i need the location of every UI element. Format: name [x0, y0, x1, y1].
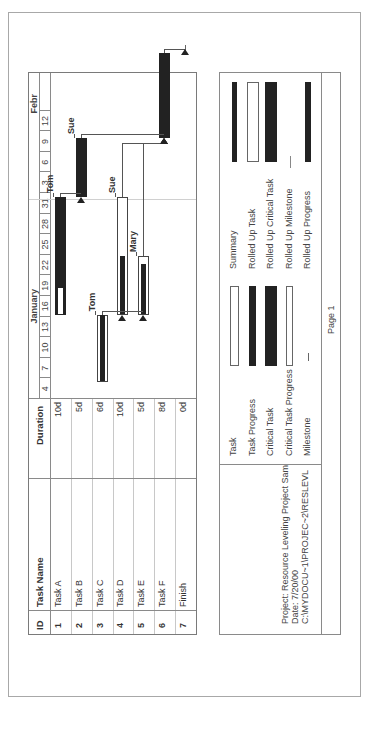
legend-swatch: [265, 82, 277, 162]
legend-label: Task: [228, 437, 238, 456]
unfilled-progress: [58, 288, 63, 314]
resource-label: Sue: [107, 177, 117, 194]
row-id: 5: [131, 623, 152, 628]
legend-swatch: [305, 82, 311, 162]
legend-label: Milestone: [302, 417, 312, 456]
row-task-name[interactable]: Finish: [173, 583, 194, 607]
timeline-tick: 25: [40, 234, 50, 255]
header-task-name[interactable]: Task Name: [29, 558, 50, 607]
legend-label: Rolled Up Milestone: [284, 188, 294, 269]
legend-swatch: [230, 286, 239, 366]
link-arrow: [77, 197, 85, 203]
timeline-tick: 28: [40, 214, 50, 235]
month-january: January: [29, 276, 40, 336]
legend-box: Project: Resource Leveling Project Sam D…: [219, 72, 341, 635]
legend-swatch: [249, 286, 256, 366]
timeline-tick: 19: [40, 275, 50, 296]
row-duration: 8d: [152, 402, 173, 429]
gantt-table: ID Task Name Duration 1Task A10d2Task B5…: [28, 72, 197, 635]
link-segment: [102, 312, 103, 315]
link-segment: [143, 144, 144, 256]
resource-leader: [74, 134, 75, 138]
link-segment: [122, 144, 123, 197]
project-date: Date: 7/20/00: [290, 570, 300, 624]
row-task-name[interactable]: Task A: [48, 580, 69, 607]
task-progress-bar: [141, 264, 146, 314]
legend-label: Summary: [228, 230, 238, 269]
month-february: Febr: [29, 92, 40, 116]
row-task-name[interactable]: Task D: [110, 579, 131, 607]
row-duration: 10d: [48, 402, 69, 429]
timeline-tick: 6: [40, 152, 50, 173]
row-task-name[interactable]: Task F: [152, 580, 173, 607]
gantt-print-page: ID Task Name Duration 1Task A10d2Task B5…: [0, 0, 378, 734]
legend-label: Rolled Up Critical Task: [265, 179, 275, 269]
page-number: Page 1: [326, 305, 336, 334]
timeline-tick: 9: [40, 131, 50, 152]
row-id: 1: [48, 623, 69, 628]
legend-label: Critical Task Progress: [284, 369, 294, 456]
row-task-name[interactable]: Task B: [69, 580, 90, 607]
link-segment: [164, 50, 165, 53]
resource-leader: [136, 252, 137, 256]
project-path: C:\MYDOCU~1\PROJEC~2\RESLEVL: [300, 470, 310, 624]
row-id: 7: [173, 623, 194, 628]
resource-label: Mary: [128, 231, 138, 252]
tick-divider: [40, 110, 50, 111]
legend-swatch: [286, 286, 293, 366]
link-segment: [81, 135, 82, 138]
row-task-name[interactable]: Task E: [131, 580, 152, 607]
critical-task-bar[interactable]: [159, 53, 170, 138]
header-id: ID: [29, 621, 50, 631]
task-progress-bar: [100, 315, 105, 381]
resource-label: Tom: [87, 293, 97, 311]
legend-swatch: [265, 286, 277, 366]
row-task-name[interactable]: Task C: [90, 579, 111, 607]
timeline-tick: 4: [40, 378, 50, 399]
timeline-tick: 16: [40, 296, 50, 317]
row-duration: 0d: [173, 402, 194, 429]
row-id: 2: [69, 623, 90, 628]
legend-swatch: [232, 82, 237, 162]
row-duration: 6d: [90, 402, 111, 429]
timeline-tick: 31: [40, 193, 50, 214]
legend-milestone-swatch: [290, 156, 291, 168]
row-duration: 5d: [131, 402, 152, 429]
row-duration: 5d: [69, 402, 90, 429]
legend-label: Critical Task: [265, 408, 275, 456]
row-id: 6: [152, 623, 173, 628]
legend-swatch: [247, 82, 259, 162]
resource-leader: [53, 193, 54, 197]
timeline-tick: 22: [40, 255, 50, 276]
timeline-tick: 13: [40, 317, 50, 338]
timeline-tick: 10: [40, 337, 50, 358]
legend-label: Rolled Up Progress: [302, 191, 312, 269]
project-name: Project: Resource Leveling Project Sam: [280, 465, 290, 624]
timeline-tick: 7: [40, 358, 50, 379]
legend-label: Task Progress: [247, 399, 257, 456]
row-id: 4: [110, 623, 131, 628]
critical-task-bar[interactable]: [76, 138, 87, 197]
legend-label: Rolled Up Task: [247, 209, 257, 269]
resource-label: Sue: [66, 117, 76, 134]
link-arrow: [139, 315, 147, 321]
link-arrow: [160, 138, 168, 144]
legend-milestone-swatch: [308, 353, 309, 361]
link-segment: [60, 193, 81, 194]
row-id: 3: [90, 623, 111, 628]
task-progress-bar: [120, 256, 125, 314]
resource-leader: [115, 193, 116, 197]
link-segment: [81, 134, 164, 135]
link-segment: [102, 311, 144, 312]
link-segment: [60, 194, 61, 197]
link-arrow: [181, 49, 189, 55]
header-duration[interactable]: Duration: [29, 406, 50, 445]
resource-label: Tom: [45, 175, 55, 193]
link-arrow: [118, 315, 126, 321]
timeline-tick: 12: [40, 111, 50, 132]
resource-leader: [95, 311, 96, 315]
row-duration: 10d: [110, 402, 131, 429]
